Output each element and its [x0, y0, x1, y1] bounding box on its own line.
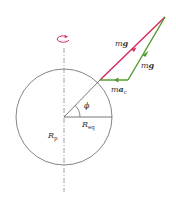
label-phi: ϕ [84, 101, 90, 110]
green-mg-vector [128, 17, 165, 80]
label-rp: Rp [47, 131, 58, 142]
label-mg-red: mg [115, 38, 129, 48]
red-mg-vector [100, 17, 165, 80]
label-req: Req [81, 120, 95, 131]
centripetal-arrowhead-icon [114, 78, 119, 83]
label-mg-green: mg [141, 60, 155, 70]
rotation-arrow-icon [57, 35, 69, 42]
label-mac: mac [111, 84, 127, 95]
phi-angle-arc [75, 106, 80, 118]
latitude-radius-line [64, 80, 100, 117]
diagram-canvas: mg mg mac ϕ Req Rp [0, 0, 176, 201]
